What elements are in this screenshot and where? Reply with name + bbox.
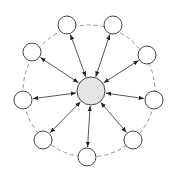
peripheral-node-2 xyxy=(138,46,156,64)
edge-arrow-2 xyxy=(104,60,139,82)
peripheral-node-8 xyxy=(23,43,41,61)
peripheral-node-0 xyxy=(58,16,76,34)
peripheral-node-7 xyxy=(14,91,32,109)
edge-arrow-0 xyxy=(70,34,85,77)
edge-arrow-1 xyxy=(96,34,110,76)
edge-arrow-6 xyxy=(50,102,81,133)
edge-arrow-8 xyxy=(40,58,78,83)
peripheral-node-1 xyxy=(104,16,122,34)
edge-arrow-3 xyxy=(106,93,144,98)
star-topology-diagram xyxy=(0,0,174,178)
peripheral-node-6 xyxy=(34,131,52,149)
peripheral-node-3 xyxy=(145,91,163,109)
nodes xyxy=(14,16,163,166)
peripheral-node-4 xyxy=(124,131,142,149)
edge-arrow-4 xyxy=(101,102,127,132)
center-node xyxy=(77,77,105,105)
edge-arrow-7 xyxy=(33,93,76,99)
peripheral-node-5 xyxy=(78,148,96,166)
edge-arrow-5 xyxy=(88,106,90,147)
